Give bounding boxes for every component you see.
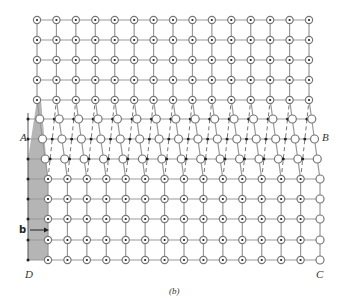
figure-caption: (b) (169, 286, 180, 296)
dislocation-lattice-diagram (0, 0, 347, 303)
label-a: A (20, 131, 27, 143)
burgers-vector-label: b (19, 224, 26, 235)
label-c: C (316, 268, 323, 280)
label-b: B (322, 131, 329, 143)
label-d: D (25, 268, 33, 280)
